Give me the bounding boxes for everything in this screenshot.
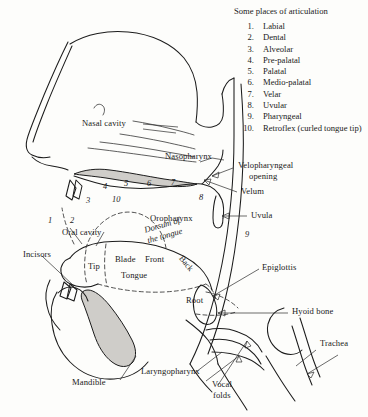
vocal-tract-diagram-page: Some places of articulation 1. Labial 2.… [0, 0, 368, 417]
label-uvula: Uvula [251, 211, 273, 221]
legend-index: 4. [232, 55, 263, 66]
nasal-turbinate-upper [94, 104, 105, 115]
arrowhead-vocal-folds-3 [307, 372, 314, 378]
hard-palate-shaded [74, 169, 197, 186]
legend-item-pharyngeal: 9. Pharyngeal [232, 111, 368, 122]
legend-item-dental: 2. Dental [232, 32, 368, 43]
hyoid-bone-dashed [206, 292, 238, 308]
label-nasopharynx: Nasopharynx [165, 152, 212, 162]
marker-3: 3 [86, 196, 90, 205]
legend-label: Pharyngeal [263, 111, 368, 122]
legend-item-velar: 7. Velar [232, 89, 368, 100]
oral-cavity-anterior [62, 208, 74, 244]
mandible-shaded [81, 290, 135, 367]
label-mandible: Mandible [72, 378, 106, 388]
label-trachea: Trachea [320, 339, 348, 349]
tongue-inferior-dashed [98, 284, 206, 292]
legend-label: Dental [263, 32, 368, 43]
legend-index: 8. [232, 100, 263, 111]
lower-lip-chin [46, 280, 60, 330]
legend-item-medio-palatal: 6. Medio-palatal [232, 77, 368, 88]
label-tongue: Tongue [121, 271, 147, 281]
cranium-outline [70, 32, 197, 123]
label-hyoid-bone: Hyoid bone [292, 307, 333, 317]
skull-base-outline [196, 94, 223, 127]
legend-index: 10. [232, 123, 263, 134]
marker-4: 4 [103, 182, 107, 191]
label-root: Root [186, 296, 203, 306]
legend-label: Velar [263, 89, 368, 100]
marker-2: 2 [70, 216, 74, 225]
legend-label: Palatal [263, 66, 368, 77]
legend-index: 3. [232, 44, 263, 55]
legend-index: 6. [232, 77, 263, 88]
leader-vocal-folds-2 [206, 356, 239, 381]
label-incisors: Incisors [23, 250, 51, 260]
legend-title: Some places of articulation [234, 6, 368, 16]
marker-5: 5 [124, 179, 128, 188]
label-velopharyngeal-opening-line1: Velopharyngeal [238, 161, 293, 171]
upper-incisor-second [73, 180, 82, 199]
legend-index: 9. [232, 111, 263, 122]
legend-label: Alveolar [263, 44, 368, 55]
forehead-nose-profile [26, 42, 68, 158]
legend-item-pre-palatal: 4. Pre-palatal [232, 55, 368, 66]
nasal-turbinate-mid [133, 121, 194, 135]
leader-incisors [42, 256, 74, 286]
legend-item-retroflex: 10. Retroflex (curled tongue tip) [232, 123, 368, 134]
marker-1: 1 [48, 216, 52, 225]
legend-item-uvular: 8. Uvular [232, 100, 368, 111]
label-front: Front [145, 255, 164, 265]
tongue-tip-divider [85, 250, 87, 284]
marker-10: 10 [112, 195, 120, 204]
legend-index: 1. [232, 21, 263, 32]
label-nasal-cavity: Nasal cavity [82, 119, 126, 129]
legend-label: Pre-palatal [263, 55, 368, 66]
legend-index: 5. [232, 66, 263, 77]
legend-label: Medio-palatal [263, 77, 368, 88]
label-blade: Blade [115, 255, 136, 265]
marker-6: 6 [147, 179, 151, 188]
nose-bridge-secondary [33, 46, 72, 142]
lower-incisor-second [67, 284, 77, 301]
label-velum: Velum [241, 187, 264, 197]
legend-item-alveolar: 3. Alveolar [232, 44, 368, 55]
laryngeal-vestibule [206, 329, 262, 352]
legend-label: Uvular [263, 100, 368, 111]
marker-8: 8 [199, 193, 203, 202]
larynx-outline [186, 320, 218, 364]
label-laryngopharynx: Laryngopharynx [141, 367, 200, 377]
leader-nasopharynx [212, 158, 224, 160]
label-epiglottis: Epiglottis [262, 263, 296, 273]
arrowhead-velum [204, 179, 211, 185]
legend-label: Labial [263, 21, 368, 32]
nasal-turbinate-lower [120, 134, 195, 149]
tongue-blade-divider [105, 244, 107, 286]
label-vocal-folds-line2: folds [213, 391, 231, 401]
trachea-inner-wall [266, 356, 295, 401]
uvula-outline [213, 196, 223, 228]
marker-7: 7 [171, 178, 175, 187]
marker-9: 9 [245, 230, 249, 239]
leader-vocal-folds-3 [307, 355, 338, 374]
leader-nasal-cavity-2 [143, 129, 176, 133]
legend-item-palatal: 5. Palatal [232, 66, 368, 77]
legend-panel: Some places of articulation 1. Labial 2.… [232, 6, 368, 134]
label-tip: Tip [88, 262, 100, 272]
label-velopharyngeal-opening-line2: opening [249, 172, 277, 182]
label-vocal-folds-line1: Vocal [212, 380, 232, 390]
legend-index: 7. [232, 89, 263, 100]
legend-label: Retroflex (curled tongue tip) [263, 123, 368, 134]
upper-lip-outline [32, 157, 68, 170]
legend-index: 2. [232, 32, 263, 43]
legend-item-labial: 1. Labial [232, 21, 368, 32]
label-oral-cavity: Oral cavity [62, 228, 102, 238]
